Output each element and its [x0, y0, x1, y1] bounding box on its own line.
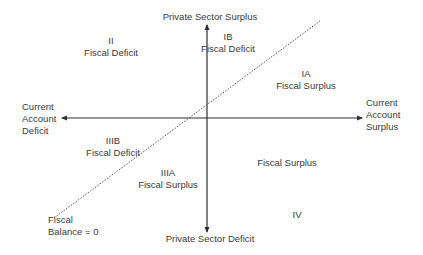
right-axis-label: Current Account Surplus [366, 97, 400, 133]
region-IIIB: IIIB Fiscal Deficit [86, 135, 140, 159]
region-IIIA: IIIA Fiscal Surplus [138, 167, 198, 191]
region-II: II Fiscal Deficit [84, 35, 138, 59]
fiscal-balance-label: Fiscal Balance = 0 [48, 214, 98, 238]
region-IV: IV [293, 209, 302, 221]
top-axis-label: Private Sector Surplus [163, 11, 258, 23]
region-IB: IB Fiscal Deficit [201, 31, 255, 55]
left-axis-label: Current Account Deficit [22, 101, 56, 137]
region-IA: IA Fiscal Surplus [276, 68, 336, 92]
region-IV-fiscal-surplus: Fiscal Surplus [257, 157, 317, 169]
bottom-axis-label: Private Sector Deficit [166, 233, 255, 245]
